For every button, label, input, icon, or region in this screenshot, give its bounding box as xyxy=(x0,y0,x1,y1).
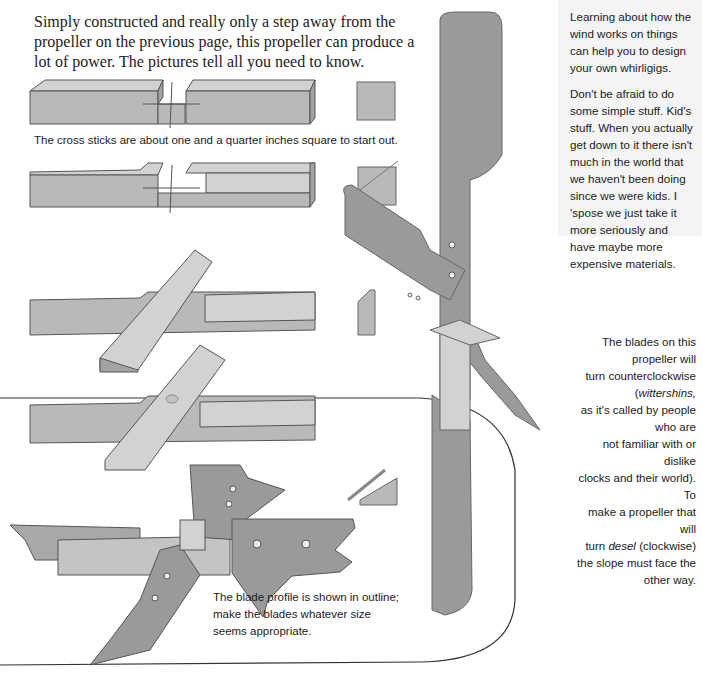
rotation-line-7: turn desel (clockwise) xyxy=(576,538,696,555)
rotation-line-6: make a propeller that will xyxy=(576,504,696,538)
step3-bevel-detail xyxy=(358,290,375,335)
term-wittershins: wittershins, xyxy=(638,387,696,399)
rotation-line-5: clocks and their world). To xyxy=(576,470,696,504)
step1-stick xyxy=(30,80,315,128)
rotation-line-4: not familiar with or dislike xyxy=(576,436,696,470)
rotation-line-9: other way. xyxy=(576,572,696,589)
step4-cross xyxy=(30,345,315,470)
rotation-line-1: The blades on this propeller will xyxy=(576,334,696,368)
step3-cross xyxy=(30,250,315,372)
rotation-line-3: as it's called by people who are xyxy=(576,402,696,436)
step1-end-square xyxy=(357,82,395,120)
caption-blade-rotation: The blades on this propeller will turn c… xyxy=(576,334,696,589)
rotation-line-2: turn counterclockwise (wittershins, xyxy=(576,368,696,402)
term-desel: desel xyxy=(608,540,636,552)
caption-cross-sticks: The cross sticks are about one and a qua… xyxy=(34,132,514,149)
screw-detail xyxy=(348,470,397,505)
rotation-line-8: the slope must face the xyxy=(576,555,696,572)
caption-blade-profile: The blade profile is shown in outline; m… xyxy=(213,589,403,640)
rotation-line-7-pre: turn xyxy=(585,540,608,552)
rotation-line-7-post: (clockwise) xyxy=(636,540,696,552)
step2-stick xyxy=(30,163,315,213)
